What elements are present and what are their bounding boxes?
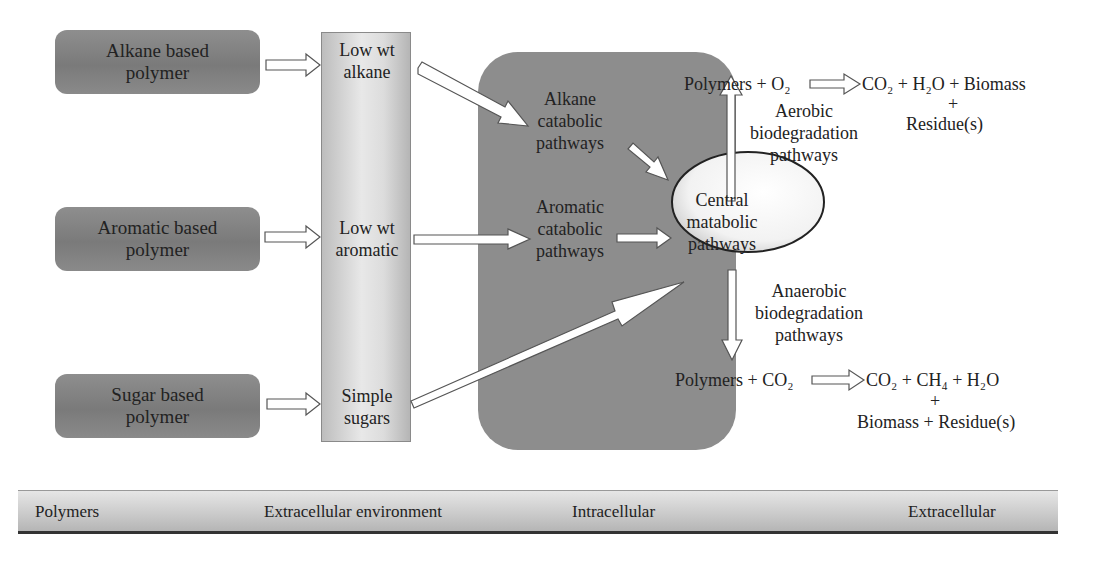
aromatic-catabolic-pathways-label: Aromaticcatabolicpathways — [520, 196, 620, 262]
arrow-aerobic-reaction — [810, 74, 860, 94]
arrow-aromatic-polymer — [265, 226, 320, 248]
arrow-to-anaerobic — [722, 270, 742, 360]
arrow-anaerobic-reaction — [812, 370, 864, 390]
anaerobic-plus: + — [928, 390, 942, 412]
zone-intracellular: Intracellular — [572, 502, 655, 522]
aerobic-plus: + — [946, 93, 960, 115]
aerobic-reactants: Polymers + O₂ — [684, 73, 790, 95]
zone-extracellular: Extracellular — [908, 502, 996, 522]
arrow-alkane-to-pathway — [418, 62, 528, 126]
anaerobic-reactants: Polymers + CO₂ — [675, 369, 793, 391]
anaerobic-biodegradation-label: Anaerobicbiodegradationpathways — [746, 280, 872, 346]
anaerobic-products: CO₂ + CH₄ + H₂O — [866, 369, 999, 391]
zone-extracellular-environment: Extracellular environment — [264, 502, 442, 522]
anaerobic-residue: Biomass + Residue(s) — [857, 411, 1015, 433]
arrow-alkane-pathway-to-central — [628, 143, 668, 180]
alkane-catabolic-pathways-label: Alkanecatabolicpathways — [520, 88, 620, 154]
aerobic-biodegradation-label: Aerobicbiodegradationpathways — [741, 100, 867, 166]
zone-polymers: Polymers — [35, 502, 99, 522]
arrow-aromatic-pathway-to-central — [617, 228, 671, 248]
aerobic-residue: Residue(s) — [906, 113, 983, 135]
arrow-alkane-polymer — [266, 54, 320, 76]
central-metabolic-pathways-label: Centralmatabolicpathways — [672, 189, 772, 255]
arrow-sugar-polymer — [267, 393, 320, 415]
zone-bar: Polymers Extracellular environment Intra… — [18, 490, 1058, 534]
aerobic-products: CO₂ + H₂O + Biomass — [862, 73, 1026, 95]
arrow-sugars-to-central — [411, 282, 684, 408]
arrow-aromatic-to-pathway — [414, 229, 530, 249]
